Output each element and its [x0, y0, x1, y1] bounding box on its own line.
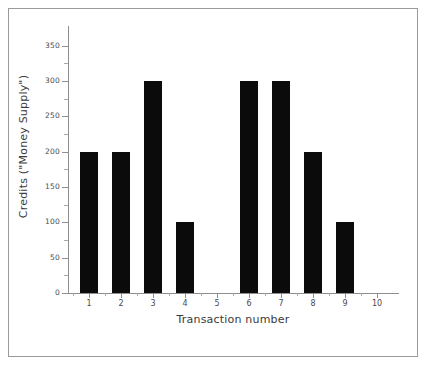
x-tick-4: [185, 293, 186, 298]
x-axis-title: Transaction number: [68, 313, 398, 326]
x-tick-label-5: 5: [205, 299, 229, 309]
x-tick-10: [377, 293, 378, 298]
x-tick-3: [153, 293, 154, 298]
y-axis-title-wrap: Credits ("Money Supply"): [0, 0, 1, 1]
bar-transaction-7: [272, 81, 290, 293]
x-tick-5: [217, 293, 218, 298]
x-tick-7: [281, 293, 282, 298]
x-tick-label-3: 3: [141, 299, 165, 309]
x-tick-9: [345, 293, 346, 298]
x-minor-tick: [73, 293, 74, 296]
y-tick-label-250: 250: [36, 112, 60, 120]
x-minor-tick: [201, 293, 202, 296]
x-minor-tick: [265, 293, 266, 296]
chart-figure: 050100150200250300350 12345678910 Transa…: [0, 0, 426, 365]
x-tick-1: [89, 293, 90, 298]
x-minor-tick: [105, 293, 106, 296]
y-tick-label-350: 350: [36, 42, 60, 50]
bar-transaction-6: [240, 81, 258, 293]
x-tick-label-8: 8: [301, 299, 325, 309]
x-tick-2: [121, 293, 122, 298]
x-minor-tick: [361, 293, 362, 296]
bar-transaction-4: [176, 222, 194, 293]
y-tick-label-300: 300: [36, 77, 60, 85]
y-axis-title: Credits ("Money Supply"): [17, 32, 30, 262]
y-tick-0: [62, 293, 68, 294]
y-tick-label-200: 200: [36, 148, 60, 156]
x-tick-label-9: 9: [333, 299, 357, 309]
bar-transaction-1: [80, 152, 98, 293]
y-tick-label-100: 100: [36, 218, 60, 226]
bar-transaction-8: [304, 152, 322, 293]
x-tick-label-4: 4: [173, 299, 197, 309]
bar-transaction-9: [336, 222, 354, 293]
x-tick-label-7: 7: [269, 299, 293, 309]
x-tick-6: [249, 293, 250, 298]
x-minor-tick: [233, 293, 234, 296]
bar-transaction-2: [112, 152, 130, 293]
x-minor-tick: [297, 293, 298, 296]
bar-transaction-3: [144, 81, 162, 293]
plot-area: [68, 28, 398, 293]
x-tick-label-2: 2: [109, 299, 133, 309]
y-tick-label-0: 0: [36, 289, 60, 297]
x-minor-tick: [137, 293, 138, 296]
x-minor-tick: [329, 293, 330, 296]
x-tick-label-10: 10: [365, 299, 389, 309]
y-tick-label-150: 150: [36, 183, 60, 191]
x-tick-label-1: 1: [77, 299, 101, 309]
x-tick-8: [313, 293, 314, 298]
x-tick-label-6: 6: [237, 299, 261, 309]
bars-layer: [68, 28, 398, 293]
x-minor-tick: [169, 293, 170, 296]
y-tick-label-50: 50: [36, 254, 60, 262]
